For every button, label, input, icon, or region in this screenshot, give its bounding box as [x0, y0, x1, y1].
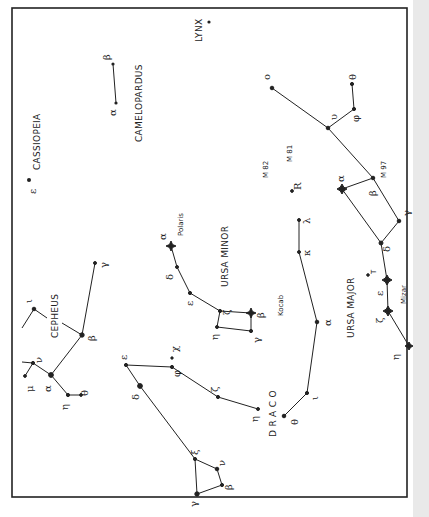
lynx: LYNX	[194, 19, 211, 42]
svg-text:θ: θ	[347, 74, 358, 80]
svg-text:γ: γ	[188, 501, 199, 507]
svg-text:α: α	[157, 233, 168, 240]
svg-text:ε: ε	[374, 291, 385, 296]
m97-label: M 97	[380, 161, 388, 178]
svg-text:δ: δ	[164, 274, 175, 280]
svg-text:ι: ι	[309, 396, 320, 400]
svg-text:ι: ι	[23, 299, 34, 303]
svg-text:ε: ε	[184, 301, 195, 306]
svg-text:o: o	[261, 74, 272, 80]
ursa-major	[270, 82, 413, 350]
svg-text:α: α	[322, 319, 333, 326]
svg-text:α: α	[42, 385, 53, 392]
r-label: R	[292, 182, 303, 190]
svg-text:β: β	[367, 190, 378, 196]
ursa-minor-labels: α δ ε ζ β γ η Polaris Kocab URSA MINOR	[157, 213, 285, 343]
svg-text:κ: κ	[301, 249, 312, 256]
lynx-label: LYNX	[194, 19, 204, 42]
svg-text:η: η	[209, 334, 220, 340]
svg-text:α: α	[335, 175, 346, 182]
svg-text:δ: δ	[381, 246, 392, 252]
svg-text:β: β	[101, 54, 112, 60]
svg-text:μ: μ	[24, 385, 35, 392]
svg-text:ξ: ξ	[189, 449, 200, 455]
svg-text:β: β	[255, 312, 266, 318]
t-label: T	[370, 269, 378, 275]
ursa-major-label: URSA MAJOR	[346, 277, 356, 338]
svg-text:φ: φ	[350, 115, 361, 122]
svg-text:ν: ν	[216, 460, 227, 466]
svg-text:δ: δ	[130, 394, 141, 400]
svg-text:θ: θ	[79, 390, 90, 396]
svg-text:γ: γ	[401, 210, 412, 216]
ursa-minor-label: URSA MINOR	[220, 226, 230, 287]
svg-text:α: α	[107, 109, 118, 116]
svg-text:η: η	[390, 354, 401, 360]
svg-text:χ: χ	[169, 346, 180, 352]
svg-text:ζ: ζ	[221, 309, 232, 315]
svg-text:η: η	[59, 404, 70, 410]
chart-frame	[12, 8, 407, 497]
ursa-major-labels: o υ φ θ β α γ δ ε ζ η Mizar M 97 M 82 M …	[261, 74, 412, 360]
svg-text:ε: ε	[27, 189, 38, 194]
svg-text:γ: γ	[251, 337, 262, 343]
svg-text:λ: λ	[301, 217, 312, 224]
cassiopeia-label: CASSIOPEIA	[32, 113, 42, 170]
star-chart: LYNX β α CAMELOPARDUS ε CASSIOPEIA γ β α…	[0, 0, 429, 517]
svg-text:ν: ν	[33, 357, 44, 363]
svg-text:ε: ε	[118, 355, 129, 360]
svg-text:β: β	[223, 484, 234, 490]
camelopardus: β α CAMELOPARDUS	[101, 54, 144, 142]
mizar-label: Mizar	[400, 285, 408, 304]
svg-text:θ: θ	[289, 419, 300, 425]
cepheus-labels: γ β α ν μ η θ ι CEPHEUS	[23, 262, 109, 410]
cassiopeia: ε CASSIOPEIA	[27, 113, 42, 194]
polaris-label: Polaris	[177, 213, 185, 236]
svg-text:ζ: ζ	[374, 317, 385, 323]
svg-text:υ: υ	[328, 114, 339, 120]
svg-text:η: η	[249, 416, 260, 422]
camelopardus-label: CAMELOPARDUS	[134, 64, 144, 142]
draco-label: D R A C O	[268, 390, 278, 437]
svg-text:β: β	[86, 335, 97, 341]
svg-text:γ: γ	[98, 262, 109, 268]
svg-text:ζ: ζ	[209, 386, 220, 392]
cepheus-label: CEPHEUS	[50, 294, 60, 338]
ursa-minor	[166, 241, 256, 333]
m82-label: M 82	[262, 161, 270, 178]
m81-label: M 81	[286, 145, 294, 162]
svg-text:φ: φ	[171, 370, 182, 377]
kocab-label: Kocab	[277, 294, 285, 316]
